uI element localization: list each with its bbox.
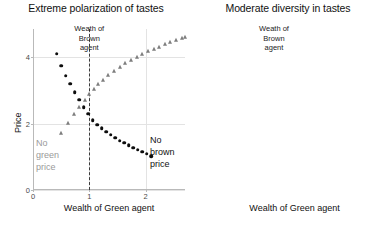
annotation-line: Weath of xyxy=(61,24,117,34)
no-green-price-note: Nogreenprice xyxy=(36,137,59,173)
gridline-vertical xyxy=(146,29,147,190)
data-point-green-price xyxy=(77,105,81,109)
note-line: price xyxy=(36,161,59,173)
chart-panel-left: Extreme polarization of tastes Price 024… xyxy=(0,0,192,231)
data-point-green-price xyxy=(123,61,127,65)
data-point-green-price xyxy=(129,58,133,62)
data-point-brown-price xyxy=(113,136,117,140)
data-point-brown-price xyxy=(82,105,86,109)
data-point-green-price xyxy=(157,44,161,48)
data-point-brown-price xyxy=(73,90,77,94)
data-point-brown-price xyxy=(131,146,135,150)
data-point-brown-price xyxy=(77,98,81,102)
data-point-brown-price xyxy=(59,64,63,68)
data-point-green-price xyxy=(183,34,187,38)
note-line: green xyxy=(36,149,59,161)
gridline-horizontal xyxy=(33,57,185,58)
vline-annotation-right: Weath ofBrownagent xyxy=(246,24,302,53)
vline-annotation-left: Weath ofBrownagent xyxy=(61,24,117,53)
data-point-green-price xyxy=(101,78,105,82)
note-line: price xyxy=(150,158,175,170)
y-tick-label: 0 xyxy=(26,186,30,195)
data-point-green-price xyxy=(72,112,76,116)
data-point-brown-price xyxy=(127,143,131,147)
y-tick-label: 4 xyxy=(26,53,30,62)
data-point-brown-price xyxy=(109,133,113,137)
x-tick-mark xyxy=(33,190,34,192)
no-brown-price-note: Nobrownprice xyxy=(150,134,175,170)
x-tick-mark xyxy=(89,190,90,192)
annotation-line: agent xyxy=(246,43,302,53)
data-point-brown-price xyxy=(140,150,144,154)
data-point-green-price xyxy=(59,131,63,135)
brown-wealth-vline-left xyxy=(89,29,90,190)
data-point-green-price xyxy=(96,82,100,86)
figure-root: Extreme polarization of tastes Price 024… xyxy=(0,0,384,231)
data-point-green-price xyxy=(87,91,91,95)
data-point-brown-price xyxy=(55,52,59,56)
data-point-brown-price xyxy=(145,152,149,156)
y-tick-mark xyxy=(31,57,33,58)
note-line: No xyxy=(150,134,175,146)
data-point-brown-price xyxy=(104,130,108,134)
data-point-green-price xyxy=(140,52,144,56)
data-point-green-price xyxy=(92,87,96,91)
chart-panel-right: Moderate diversity in tastes 46810012 We… xyxy=(192,0,384,231)
x-tick-label: 2 xyxy=(144,192,148,201)
note-line: No xyxy=(36,137,59,149)
data-point-green-price xyxy=(118,65,122,69)
data-point-green-price xyxy=(66,121,70,125)
data-point-green-price xyxy=(135,55,139,59)
y-axis-label-left: Price xyxy=(13,112,23,133)
x-axis-label-right: Wealth of Green agent xyxy=(217,203,372,213)
chart-title-left: Extreme polarization of tastes xyxy=(0,2,192,14)
y-axis-line-left xyxy=(33,29,34,190)
data-point-brown-price xyxy=(136,148,140,152)
annotation-line: Brown xyxy=(61,34,117,44)
data-point-green-price xyxy=(174,38,178,42)
annotation-line: Brown xyxy=(246,34,302,44)
data-point-green-price xyxy=(106,73,110,77)
data-point-green-price xyxy=(146,49,150,53)
data-point-brown-price xyxy=(64,74,68,78)
annotation-line: Weath of xyxy=(246,24,302,34)
y-tick-mark xyxy=(31,124,33,125)
x-axis-label-left: Wealth of Green agent xyxy=(33,203,185,213)
data-point-brown-price xyxy=(68,82,72,86)
gridline-horizontal xyxy=(33,190,185,191)
data-point-brown-price xyxy=(100,127,104,131)
data-point-brown-price xyxy=(122,141,126,145)
data-point-brown-price xyxy=(86,112,90,116)
x-tick-mark xyxy=(146,190,147,192)
y-tick-label: 2 xyxy=(26,119,30,128)
data-point-green-price xyxy=(83,97,87,101)
x-axis-line-left xyxy=(33,189,185,190)
data-point-green-price xyxy=(163,42,167,46)
note-line: brown xyxy=(150,146,175,158)
annotation-line: agent xyxy=(61,43,117,53)
data-point-green-price xyxy=(168,40,172,44)
x-tick-label: 1 xyxy=(87,192,91,201)
data-point-brown-price xyxy=(118,139,122,143)
data-point-green-price xyxy=(152,47,156,51)
gridline-horizontal xyxy=(33,124,185,125)
x-tick-label: 0 xyxy=(31,192,35,201)
data-point-brown-price xyxy=(91,119,95,123)
data-point-brown-price xyxy=(95,123,99,127)
chart-title-right: Moderate diversity in tastes xyxy=(192,2,384,14)
data-point-green-price xyxy=(112,69,116,73)
